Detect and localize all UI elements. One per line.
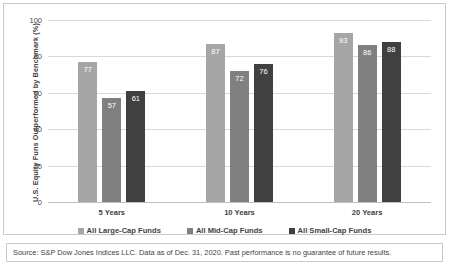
bar-value-label: 72 (230, 74, 249, 83)
legend-label: All Small-Cap Funds (298, 226, 372, 235)
bar-value-label: 86 (358, 48, 377, 57)
x-axis-line (48, 202, 431, 203)
legend-item[interactable]: All Large-Cap Funds (78, 226, 161, 235)
chart-frame: U.S. Equity Funs Outperformed by Benchma… (3, 3, 446, 235)
bar-value-label: 77 (78, 65, 97, 74)
bar-group: 93868820 Years (303, 20, 431, 202)
y-axis-title: U.S. Equity Funs Outperformed by Benchma… (31, 18, 40, 208)
x-axis-category-label: 20 Years (352, 208, 383, 217)
chart-legend: All Large-Cap FundsAll Mid-Cap FundsAll … (4, 226, 445, 235)
legend-label: All Large-Cap Funds (87, 226, 161, 235)
source-note-text: Source: S&P Dow Jones Indices LLC. Data … (7, 248, 391, 257)
y-axis-tick-label: 40 (34, 125, 42, 134)
bar-value-label: 93 (334, 36, 353, 45)
bar-value-label: 88 (382, 45, 401, 54)
legend-swatch-icon (289, 228, 295, 234)
bar-group: 7757615 Years (48, 20, 176, 202)
y-axis-tick-label: 20 (34, 161, 42, 170)
bar-value-label: 61 (126, 94, 145, 103)
plot-area: 0204060801007757615 Years87727610 Years9… (48, 20, 431, 202)
y-axis-tick-label: 60 (34, 88, 42, 97)
y-axis-tick-label: 80 (34, 52, 42, 61)
legend-swatch-icon (187, 228, 193, 234)
bar: 88 (382, 42, 401, 202)
bar-group: 87727610 Years (176, 20, 304, 202)
source-note-box: Source: S&P Dow Jones Indices LLC. Data … (6, 243, 443, 262)
bar-value-label: 57 (102, 101, 121, 110)
legend-item[interactable]: All Mid-Cap Funds (187, 226, 263, 235)
y-axis-tick-label: 0 (38, 198, 42, 207)
bar-value-label: 87 (206, 47, 225, 56)
bar: 72 (230, 71, 249, 202)
bar: 76 (254, 64, 273, 202)
bar: 57 (102, 98, 121, 202)
x-axis-category-label: 5 Years (99, 208, 125, 217)
bar: 86 (358, 45, 377, 202)
y-axis-tick-label: 100 (29, 16, 42, 25)
legend-label: All Mid-Cap Funds (196, 226, 263, 235)
legend-item[interactable]: All Small-Cap Funds (289, 226, 372, 235)
bar: 77 (78, 62, 97, 202)
bar: 61 (126, 91, 145, 202)
bar: 87 (206, 44, 225, 202)
legend-swatch-icon (78, 228, 84, 234)
x-axis-category-label: 10 Years (224, 208, 255, 217)
chart-figure: U.S. Equity Funs Outperformed by Benchma… (0, 0, 449, 276)
bar-value-label: 76 (254, 67, 273, 76)
bar: 93 (334, 33, 353, 202)
